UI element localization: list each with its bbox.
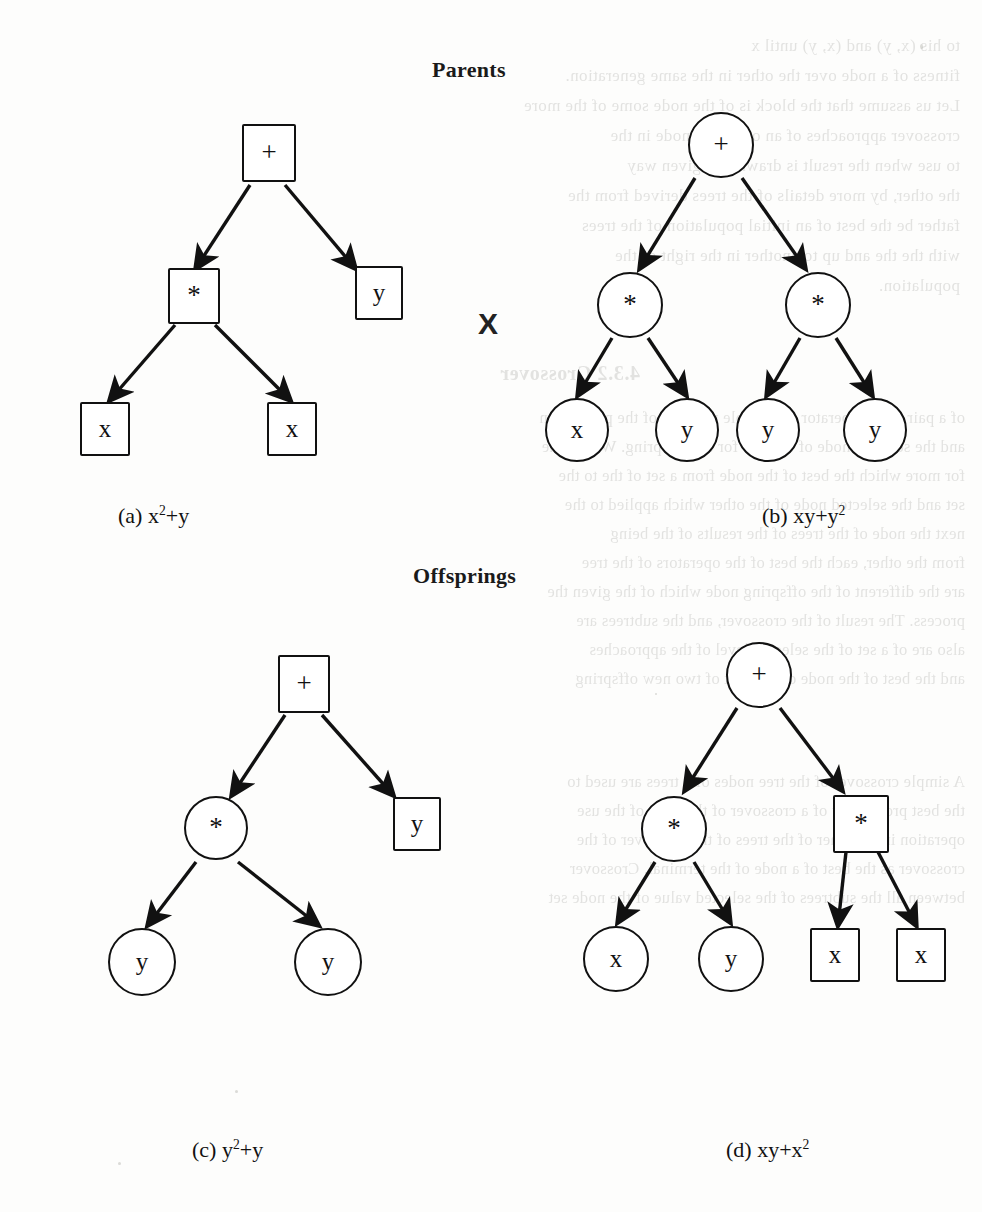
- scan-speck: [920, 44, 923, 49]
- node-d-mul-left[interactable]: *: [641, 796, 707, 862]
- node-label: y: [136, 949, 149, 974]
- node-d-leaf-1[interactable]: x: [583, 926, 649, 992]
- node-label: +: [261, 139, 276, 166]
- node-label: y: [869, 417, 882, 442]
- node-c-leaf-1[interactable]: y: [108, 928, 176, 996]
- node-label: y: [373, 280, 386, 305]
- bleed-line: Let us assume that the block is of the n…: [524, 96, 960, 116]
- node-label: y: [681, 417, 694, 442]
- node-label: *: [854, 810, 868, 837]
- caption-expression: xy+x2: [757, 1137, 809, 1162]
- node-label: y: [322, 949, 335, 974]
- bleed-line: crossover as the best of a node of the t…: [570, 859, 965, 879]
- node-label: *: [811, 291, 825, 318]
- node-label: x: [99, 416, 112, 441]
- node-label: +: [751, 661, 766, 688]
- caption-prefix: (b): [762, 503, 788, 528]
- bleed-line: with the the and up to another in the ri…: [615, 246, 960, 266]
- bleed-line: are the different of the offspring node …: [547, 582, 965, 602]
- scan-speck: [235, 1090, 238, 1093]
- node-b-leaf-4[interactable]: y: [843, 398, 907, 462]
- node-label: y: [411, 811, 424, 836]
- crossover-operator-symbol: X: [478, 307, 498, 341]
- bleed-line: process. The result of the crossover, an…: [576, 611, 965, 631]
- node-a-leaf-1[interactable]: x: [80, 402, 130, 456]
- node-label: y: [762, 417, 775, 442]
- node-label: +: [296, 670, 311, 697]
- node-a-mul[interactable]: *: [168, 268, 220, 324]
- scan-bleedthrough-layer: to his (x, y) and (x, y) until x fitness…: [0, 0, 982, 1212]
- node-b-mul-right[interactable]: *: [785, 272, 851, 338]
- parents-heading: Parents: [432, 57, 506, 83]
- node-label: x: [915, 942, 928, 967]
- node-c-leaf-y[interactable]: y: [393, 797, 441, 851]
- bleed-line: to use when the result is drawn in a giv…: [627, 156, 960, 176]
- node-c-leaf-2[interactable]: y: [294, 928, 362, 996]
- node-b-leaf-1[interactable]: x: [545, 398, 609, 462]
- caption-prefix: (d): [726, 1137, 752, 1162]
- node-label: *: [667, 815, 681, 842]
- caption-expression: x2+y: [148, 503, 189, 528]
- scan-speck: [655, 693, 657, 695]
- node-label: *: [187, 282, 201, 309]
- node-d-leaf-4[interactable]: x: [896, 928, 946, 982]
- node-a-leaf-2[interactable]: x: [267, 402, 317, 456]
- node-a-leaf-3[interactable]: y: [355, 266, 403, 320]
- caption-prefix: (a): [118, 503, 142, 528]
- bleed-line: the other, by more details of the trees …: [568, 186, 960, 206]
- caption-figure-c: (c) y2+y: [192, 1137, 263, 1163]
- caption-expression: y2+y: [222, 1137, 263, 1162]
- bleed-line: operation in the other of the trees of t…: [577, 830, 965, 850]
- scanned-figure-page: { "page": { "background_color": "#fdfdfc…: [0, 0, 982, 1212]
- node-label: x: [829, 942, 842, 967]
- tree-edges: [0, 0, 982, 1212]
- node-d-root[interactable]: +: [726, 642, 792, 708]
- bleed-line: between all the subtrees of the selected…: [548, 888, 965, 908]
- caption-figure-d: (d) xy+x2: [726, 1137, 809, 1163]
- edges-figure-a: [110, 185, 355, 400]
- caption-figure-b: (b) xy+y2: [762, 503, 845, 529]
- bleed-line: population.: [879, 276, 960, 296]
- bleed-line: father be the best of an initial populat…: [582, 216, 960, 236]
- bleed-line: the best probability of a crossover of t…: [577, 801, 965, 821]
- bleed-line: crossover approaches of an offspring nod…: [610, 126, 960, 146]
- node-c-mul[interactable]: *: [184, 796, 248, 860]
- bleed-line: for more which the best of the node from…: [558, 466, 965, 486]
- node-label: +: [713, 131, 728, 158]
- bleed-line: fitness of a node over the other in the …: [565, 66, 960, 86]
- bleed-line: A simple crossover of the tree nodes of …: [567, 772, 965, 792]
- node-label: *: [623, 291, 637, 318]
- node-b-root[interactable]: +: [688, 112, 754, 178]
- node-d-leaf-3[interactable]: x: [810, 928, 860, 982]
- node-b-leaf-3[interactable]: y: [736, 398, 800, 462]
- node-d-mul-right[interactable]: *: [833, 795, 889, 853]
- node-label: *: [209, 814, 223, 841]
- node-a-root[interactable]: +: [242, 124, 296, 182]
- bleed-line: from the other, each the best of the ope…: [582, 553, 965, 573]
- offsprings-heading: Offsprings: [413, 563, 516, 589]
- bleed-line: to his (x, y) and (x, y) until x: [751, 36, 960, 56]
- node-b-leaf-2[interactable]: y: [655, 398, 719, 462]
- node-label: x: [571, 417, 584, 442]
- node-label: y: [725, 946, 738, 971]
- node-label: x: [610, 946, 623, 971]
- caption-figure-a: (a) x2+y: [118, 503, 189, 529]
- caption-expression: xy+y2: [793, 503, 845, 528]
- bleed-section-title: 4.3.2 Crossover: [500, 362, 640, 385]
- caption-prefix: (c): [192, 1137, 216, 1162]
- scan-speck: [118, 1162, 121, 1165]
- node-c-root[interactable]: +: [278, 655, 330, 713]
- node-b-mul-left[interactable]: *: [597, 272, 663, 338]
- node-d-leaf-2[interactable]: y: [698, 926, 764, 992]
- node-label: x: [286, 416, 299, 441]
